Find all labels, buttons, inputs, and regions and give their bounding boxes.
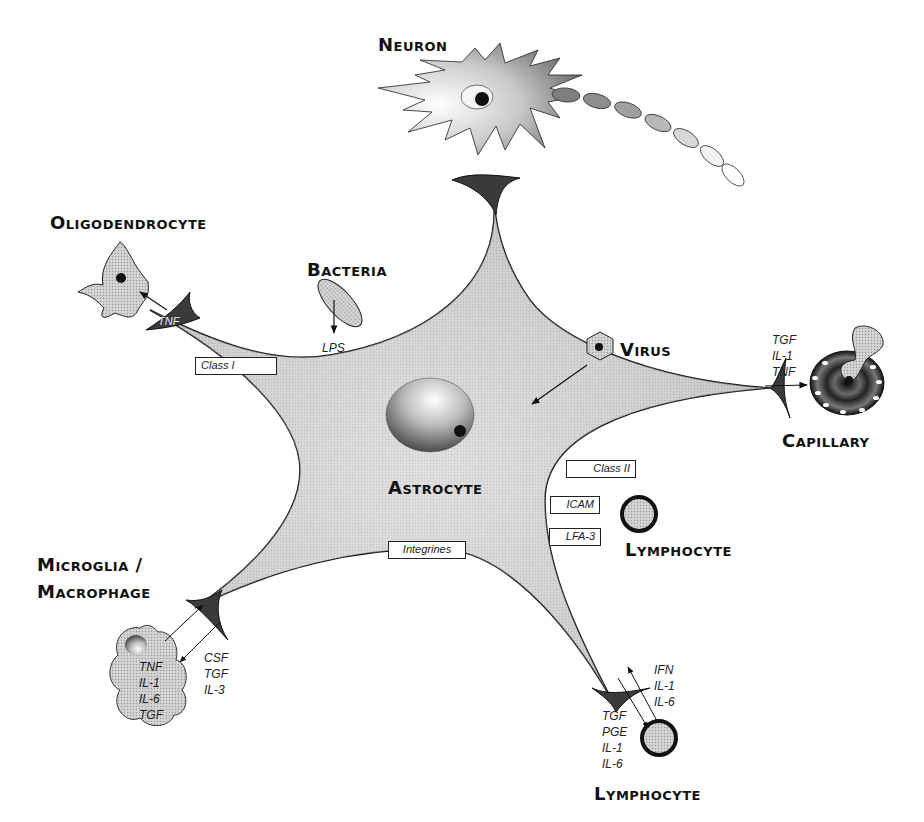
cytokine-item: IL-1 [602,740,627,756]
neuron-nucleus [475,92,489,106]
cytokine-item: IL-6 [602,756,627,772]
cytokine-item: TGF [204,666,228,682]
microglia-label-line2: Macrophage [37,582,151,602]
neuron-label: Neuron [378,35,447,55]
cytokine-item: TNF [139,659,163,675]
cytokine-item: IL-1 [139,675,163,691]
cytokines-astrocyte-to-microglia: CSF TGF IL-3 [204,650,228,698]
cytokine-item: IFN [654,662,675,678]
cytokine-item: TGF [772,332,796,348]
cytokines-capillary: TGF IL-1 TNF [772,332,796,380]
oligodendrocyte-label: Oligodendrocyte [50,213,207,233]
cytokine-item: IL-6 [654,694,675,710]
virus-label: Virus [620,340,671,360]
cytokine-item: PGE [602,724,627,740]
cytokine-item: IL-1 [772,348,796,364]
cytokine-item: CSF [204,650,228,666]
capillary-label: Capillary [782,431,869,451]
cytokine-item: IL-1 [654,678,675,694]
cytokine-tnf-oligodendrocyte: TNF [158,313,179,329]
receptor-class-i: Class I [195,357,277,375]
microglia-label-line1: Microglia / [37,555,143,575]
oligodendrocyte-nucleus [116,273,126,283]
lymphocyte-mid-label: Lymphocyte [625,540,732,560]
neuron-cell [378,43,748,190]
astrocyte-label: Astrocyte [388,478,482,498]
cytokines-lymphocyte-to-astrocyte: IFN IL-1 IL-6 [654,662,675,710]
bacteria-cell [311,273,369,334]
oligodendrocyte-cell [78,242,148,317]
cytokine-item: IL-6 [139,691,163,707]
receptor-integrines: Integrines [388,541,466,559]
receptor-icam: ICAM [550,496,600,514]
receptor-class-ii: Class II [566,460,636,478]
cytokine-item: TGF [602,708,627,724]
endfoot-top [452,175,520,215]
cytokine-item: TNF [772,364,796,380]
lymphocyte-mid-cell [622,497,656,531]
cytokine-item: IL-3 [204,682,228,698]
cytokines-astrocyte-to-lymphocyte: TGF PGE IL-1 IL-6 [602,708,627,772]
lymphocyte-bottom-label: Lymphocyte [594,784,701,804]
receptor-lfa3: LFA-3 [549,528,601,546]
cytokine-lps: LPS [322,340,345,356]
astrocyte-nucleolus [454,425,466,437]
bacteria-label: Bacteria [307,260,387,280]
cytokine-item: TGF [139,707,163,723]
astrocyte-nucleus [386,378,474,452]
neuron-axon-myelin [551,87,747,190]
cytokines-microglia-to-astrocyte: TNF IL-1 IL-6 TGF [139,659,163,723]
astrocyte-cell [146,175,790,712]
